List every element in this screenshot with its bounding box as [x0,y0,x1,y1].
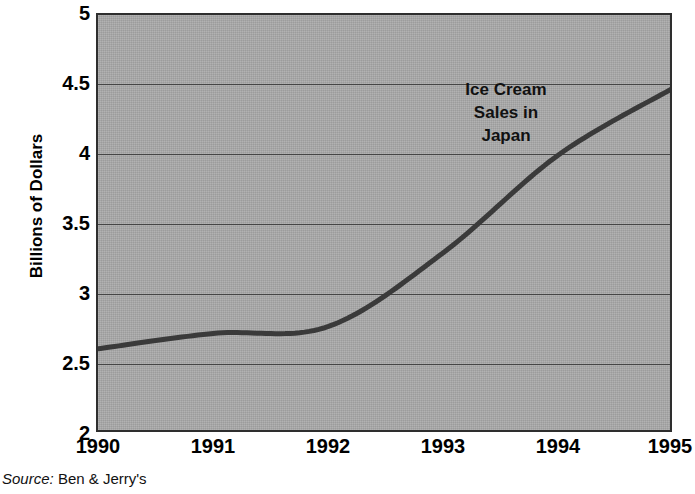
x-tick-label: 1994 [513,436,603,456]
x-tick-label: 1990 [53,436,143,456]
data-series-line [98,15,672,432]
annotation-line-3: Japan [442,124,570,147]
source-label: Source: [2,470,54,487]
x-tick-label: 1992 [283,436,373,456]
x-axis-tick-labels: 1990 1991 1992 1993 1994 1995 [96,436,672,466]
x-tick-label: 1991 [168,436,258,456]
source-value: Ben & Jerry's [58,470,147,487]
x-tick-label: 1995 [625,436,695,456]
x-tick-label: 1993 [398,436,488,456]
y-tick-label: 5 [32,3,90,23]
y-tick-label: 4 [32,143,90,163]
chart-container: Billions of Dollars 5 4.5 4 3.5 3 2.5 2 … [0,0,695,494]
plot-area [96,13,672,432]
y-tick-label: 3.5 [32,213,90,233]
annotation-line-1: Ice Cream [442,78,570,101]
y-tick-label: 2.5 [32,353,90,373]
y-tick-label: 4.5 [32,73,90,93]
source-note: Source: Ben & Jerry's [2,470,147,487]
y-tick-label: 3 [32,283,90,303]
y-axis-tick-labels: 5 4.5 4 3.5 3 2.5 2 [30,0,90,494]
series-annotation: Ice Cream Sales in Japan [442,78,570,147]
annotation-line-2: Sales in [442,101,570,124]
